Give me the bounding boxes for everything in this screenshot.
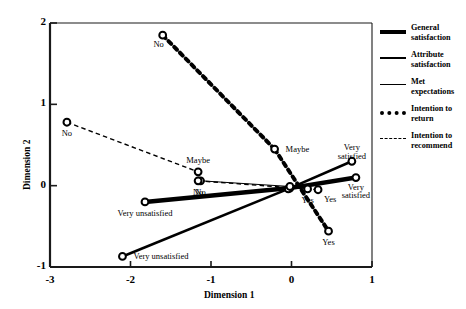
legend-item-general[interactable]: General satisfaction xyxy=(380,22,464,46)
data-point-marker xyxy=(325,228,332,235)
legend-item-recommend[interactable]: Intention to recommend xyxy=(380,130,464,154)
data-point-marker xyxy=(64,119,71,126)
x-tick-label: 0 xyxy=(283,273,301,285)
y-axis-title: Dimension 2 xyxy=(22,140,32,190)
legend-item-return[interactable]: Intention to return xyxy=(380,103,464,127)
y-tick-label: -1 xyxy=(22,259,46,271)
data-point-marker xyxy=(286,183,293,190)
x-tick-label: -3 xyxy=(41,273,59,285)
legend-label: Intention to return xyxy=(411,103,464,125)
legend-swatch-return-icon xyxy=(380,103,406,123)
x-tick-label: -2 xyxy=(122,273,140,285)
chart-legend: General satisfactionAttribute satisfacti… xyxy=(380,22,464,157)
data-point-marker xyxy=(142,199,149,206)
point-label: Yes xyxy=(324,195,336,204)
point-label: Maybe xyxy=(286,145,310,154)
legend-item-attribute[interactable]: Attribute satisfaction xyxy=(380,49,464,73)
y-tick-label: 1 xyxy=(22,96,46,108)
data-point-marker xyxy=(353,174,360,181)
point-label: Yes xyxy=(263,196,353,205)
legend-label: Intention to recommend xyxy=(411,130,464,152)
point-label: Very unsatisfied xyxy=(133,252,188,261)
point-label: Maybe xyxy=(153,156,243,165)
legend-label: Met expectations xyxy=(411,76,464,98)
point-label: No xyxy=(22,129,112,138)
data-point-marker xyxy=(195,177,202,184)
x-tick-label: 1 xyxy=(363,273,381,285)
legend-item-met[interactable]: Met expectations xyxy=(380,76,464,100)
legend-swatch-general-icon xyxy=(380,22,406,42)
chart-figure: -3-2-101210-1 Very unsatisfiedVerysatisf… xyxy=(0,0,466,309)
legend-label: Attribute satisfaction xyxy=(411,49,464,71)
series-line xyxy=(163,35,275,149)
point-label: Yes xyxy=(284,238,374,247)
legend-label: General satisfaction xyxy=(411,22,464,44)
data-point-marker xyxy=(119,253,126,260)
point-label: No xyxy=(114,40,204,49)
data-point-marker xyxy=(159,32,166,39)
x-tick-label: -1 xyxy=(202,273,220,285)
legend-swatch-attribute-icon xyxy=(380,49,406,69)
point-label: No xyxy=(153,188,243,197)
x-axis-title: Dimension 1 xyxy=(204,290,254,300)
point-label: Very unsatisfied xyxy=(100,209,190,218)
y-tick-label: 2 xyxy=(22,15,46,27)
legend-swatch-met-icon xyxy=(380,76,406,96)
legend-swatch-recommend-icon xyxy=(380,130,406,150)
data-point-marker xyxy=(271,146,278,153)
data-point-marker xyxy=(195,168,202,175)
